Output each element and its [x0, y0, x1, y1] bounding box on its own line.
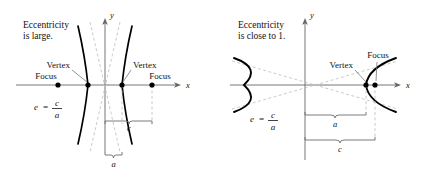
right-eccentricity-formula: e = c a [250, 110, 278, 132]
right-focus-label: Focus [367, 50, 389, 60]
right-bracket-a [305, 112, 366, 118]
panel-left: c a Focus Vertex Vertex Focus Eccentrici… [16, 10, 190, 169]
left-formula-equals: = [43, 102, 48, 112]
eccentricity-figure: c a Focus Vertex Vertex Focus Eccentrici… [0, 0, 431, 172]
left-vertex-left-label: Vertex [47, 60, 71, 70]
left-formula-e: e [34, 102, 38, 112]
right-label-leaders [355, 62, 377, 82]
left-vertex-right-dot [119, 82, 124, 87]
right-bracket-c-label: c [338, 144, 342, 154]
left-caption-line1: Eccentricity [23, 20, 69, 30]
left-formula-numerator: c [55, 98, 59, 108]
left-vertex-left-dot [85, 82, 90, 87]
left-formula-denominator: a [55, 110, 60, 120]
right-x-axis-label: x [405, 80, 410, 90]
left-bracket-a [105, 152, 122, 158]
right-formula-e: e [250, 114, 254, 124]
left-x-axis-label: x [185, 80, 190, 90]
left-focus-left-dot [55, 82, 60, 87]
right-vertex-label: Vertex [330, 60, 354, 70]
left-focus-right-label: Focus [149, 71, 171, 81]
left-vertex-right-label: Vertex [133, 60, 157, 70]
left-focus-left-label: Focus [35, 71, 57, 81]
right-formula-equals: = [259, 114, 264, 124]
right-bracket-a-label: a [333, 119, 337, 129]
left-eccentricity-formula: e = c a [34, 98, 62, 120]
left-caption-line2: is large. [23, 31, 53, 41]
right-formula-denominator: a [271, 122, 276, 132]
left-bracket-a-label: a [111, 159, 115, 169]
left-x-axis [16, 82, 181, 88]
right-caption-line2: is close to 1. [238, 31, 286, 41]
right-guide-lines [366, 85, 375, 140]
right-focus-right-dot [372, 82, 377, 87]
left-guide-lines [105, 85, 152, 155]
left-y-axis-label: y [109, 10, 114, 20]
right-formula-numerator: c [271, 110, 275, 120]
right-bracket-c [305, 137, 375, 143]
right-y-axis-label: y [309, 10, 314, 20]
right-vertex-right-dot [363, 82, 368, 87]
left-focus-right-dot [149, 82, 154, 87]
left-bracket-c-label: c [127, 123, 131, 133]
panel-right: a c Vertex Focus Eccentricity is close t… [230, 10, 410, 160]
right-caption-line1: Eccentricity [238, 20, 284, 30]
